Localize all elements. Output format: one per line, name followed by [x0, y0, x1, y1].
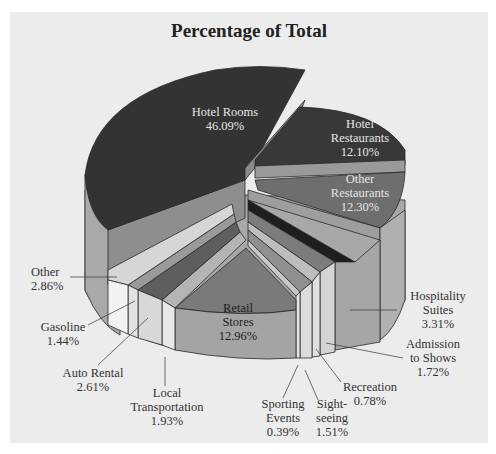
label-name: Gasoline	[38, 320, 88, 334]
label-line2: Transportation	[125, 400, 209, 414]
label-line2: Restaurants	[315, 131, 405, 145]
label-value: 12.10%	[315, 145, 405, 159]
slice-wall-sporting-events	[296, 292, 300, 358]
leader-recreation	[316, 349, 341, 382]
label-hotel-restaurants: Hotel Restaurants 12.10%	[315, 117, 405, 159]
label-admission-to-shows: Admission to Shows 1.72%	[398, 337, 468, 379]
slice-wall-auto-rental	[138, 290, 162, 345]
slice-wall-gasoline	[128, 285, 138, 338]
label-line2: Restaurants	[315, 186, 405, 200]
leader-sporting-events	[283, 365, 298, 398]
label-line1: Hospitality	[398, 289, 478, 303]
label-value: 1.44%	[38, 334, 88, 348]
label-value: 46.09%	[165, 119, 285, 133]
label-name: Auto Rental	[58, 366, 128, 380]
slice-wall-other	[108, 280, 128, 334]
label-line2: Events	[255, 411, 311, 425]
label-name: Other	[31, 265, 71, 279]
label-line2: to Shows	[398, 351, 468, 365]
label-line1: Hotel	[315, 117, 405, 131]
label-value: 1.72%	[398, 365, 468, 379]
label-value: 12.30%	[315, 200, 405, 214]
slice-wall-local-transportation	[162, 300, 175, 350]
label-line1: Local	[125, 386, 209, 400]
slice-wall-sightseeing	[300, 282, 312, 358]
label-line2: seeing	[312, 411, 352, 425]
label-hospitality-suites: Hospitality Suites 3.31%	[398, 289, 478, 331]
label-retail-stores: Retail Stores 12.96%	[208, 301, 268, 343]
label-value: 1.51%	[312, 425, 352, 439]
label-hotel-rooms: Hotel Rooms 46.09%	[165, 105, 285, 133]
label-value: 2.61%	[58, 380, 128, 394]
label-gasoline: Gasoline 1.44%	[38, 320, 88, 348]
label-sporting-events: Sporting Events 0.39%	[255, 397, 311, 439]
leader-admission-to-shows	[326, 343, 403, 358]
label-line2: Suites	[398, 303, 478, 317]
label-name: Recreation	[340, 380, 400, 394]
label-sightseeing: Sight- seeing 1.51%	[312, 397, 352, 439]
label-line1: Retail	[208, 301, 268, 315]
slice-wall-recreation	[312, 272, 320, 357]
label-line1: Sporting	[255, 397, 311, 411]
leader-sightseeing	[305, 370, 318, 400]
label-value: 3.31%	[398, 317, 478, 331]
label-value: 1.93%	[125, 414, 209, 428]
label-other: Other 2.86%	[31, 265, 71, 293]
label-line2: Stores	[208, 315, 268, 329]
label-value: 0.39%	[255, 425, 311, 439]
label-value: 2.86%	[31, 279, 71, 293]
label-line1: Admission	[398, 337, 468, 351]
label-local-transportation: Local Transportation 1.93%	[125, 386, 209, 428]
label-name: Hotel Rooms	[165, 105, 285, 119]
slice-wall-admission-to-shows	[320, 262, 335, 355]
label-auto-rental: Auto Rental 2.61%	[58, 366, 128, 394]
label-value: 12.96%	[208, 329, 268, 343]
label-line1: Sight-	[312, 397, 352, 411]
label-line1: Other	[315, 172, 405, 186]
label-other-restaurants: Other Restaurants 12.30%	[315, 172, 405, 214]
